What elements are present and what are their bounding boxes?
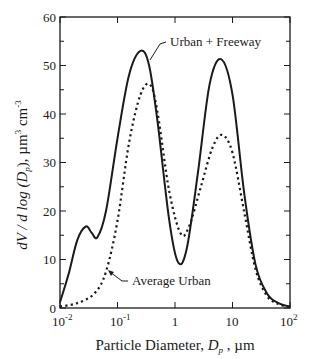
y-tick-label-30: 30 xyxy=(43,155,56,170)
x-tick-label-100: 102 xyxy=(280,312,298,329)
y-tick-label-20: 20 xyxy=(43,204,56,219)
annotation-label-average-urban: Average Urban xyxy=(132,273,211,288)
x-tick-label-0.01: 10-2 xyxy=(52,312,73,329)
x-tick-label-10: 10 xyxy=(226,314,239,329)
y-tick-label-50: 50 xyxy=(43,58,56,73)
y-tick-label-40: 40 xyxy=(43,107,56,122)
y-axis-title: dV / d log (Dp), µm3 cm-3 xyxy=(13,100,32,250)
y-tick-label-10: 10 xyxy=(43,252,56,267)
x-tick-labels: 10-2 10-1 1 10 102 xyxy=(52,312,298,329)
y-tick-label-60: 60 xyxy=(43,10,56,25)
annotation-average-urban: Average Urban xyxy=(108,270,211,288)
annotation-urban-freeway: Urban + Freeway xyxy=(150,34,262,60)
y-tick-labels: 0102030405060 xyxy=(43,10,56,316)
x-tick-label-0.1: 10-1 xyxy=(110,312,131,329)
x-tick-label-1: 1 xyxy=(172,314,179,329)
arrowhead-icon xyxy=(108,270,114,276)
chart: 0102030405060 10-2 10-1 1 10 102 Urban +… xyxy=(0,0,313,359)
leader-line-urban-freeway xyxy=(150,42,166,60)
x-axis-title: Particle Diameter, Dp , µm xyxy=(95,337,255,355)
annotation-label-urban-freeway: Urban + Freeway xyxy=(170,34,262,49)
